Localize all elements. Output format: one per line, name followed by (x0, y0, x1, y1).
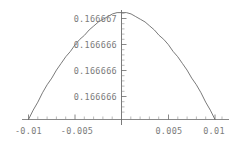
x-tick-label-2: -0.005 (51, 126, 103, 136)
y-tick-label-3: 0.166666 (74, 66, 117, 76)
plot-figure: 0.166667 0.166666 0.166666 0.166666 -0.0… (0, 0, 240, 145)
x-tick-label-3: 0.005 (143, 126, 195, 136)
x-tick-label-4: 0.01 (192, 126, 236, 136)
x-tick-label-1: -0.01 (6, 126, 52, 136)
y-tick-label-1: 0.166667 (74, 14, 117, 24)
plot-canvas (0, 0, 240, 145)
y-tick-label-2: 0.166666 (74, 40, 117, 50)
y-axis-major-ticks (122, 19, 127, 97)
x-axis-minor-ticks (38, 117, 222, 120)
y-tick-label-4: 0.166666 (74, 92, 117, 102)
